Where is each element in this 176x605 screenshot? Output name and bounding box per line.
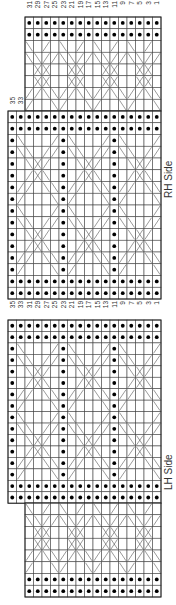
svg-text:3: 3: [145, 301, 152, 305]
svg-text:15: 15: [94, 1, 101, 9]
rh-side-label: RH Side: [163, 161, 174, 198]
svg-text:21: 21: [68, 301, 75, 309]
svg-text:9: 9: [119, 301, 126, 305]
svg-text:11: 11: [111, 1, 118, 8]
svg-text:7: 7: [128, 1, 135, 5]
svg-text:35: 35: [9, 301, 16, 309]
svg-text:5: 5: [136, 301, 143, 305]
svg-text:23: 23: [60, 1, 67, 9]
svg-text:17: 17: [85, 301, 92, 309]
svg-text:29: 29: [34, 1, 41, 9]
svg-text:29: 29: [34, 301, 41, 309]
svg-text:17: 17: [85, 1, 92, 9]
svg-text:11: 11: [111, 301, 118, 308]
lh-side-label: LH Side: [163, 454, 174, 490]
svg-text:35: 35: [9, 97, 16, 105]
svg-text:19: 19: [77, 301, 84, 309]
svg-text:9: 9: [119, 1, 126, 5]
svg-text:5: 5: [136, 1, 143, 5]
svg-text:13: 13: [102, 1, 109, 9]
svg-text:27: 27: [43, 301, 50, 309]
svg-text:21: 21: [68, 1, 75, 9]
svg-text:7: 7: [128, 301, 135, 305]
svg-text:33: 33: [17, 301, 24, 309]
knitting-chart: 3129272523211917151311975313533353331292…: [0, 0, 176, 605]
svg-text:1: 1: [153, 1, 160, 5]
svg-text:33: 33: [17, 97, 24, 105]
svg-text:31: 31: [26, 1, 33, 9]
svg-text:15: 15: [94, 301, 101, 309]
svg-text:25: 25: [51, 301, 58, 309]
svg-text:31: 31: [26, 301, 33, 309]
svg-text:3: 3: [145, 1, 152, 5]
svg-text:19: 19: [77, 1, 84, 9]
svg-text:13: 13: [102, 301, 109, 309]
svg-text:25: 25: [51, 1, 58, 9]
svg-text:1: 1: [153, 301, 160, 305]
svg-text:23: 23: [60, 301, 67, 309]
svg-text:27: 27: [43, 1, 50, 9]
